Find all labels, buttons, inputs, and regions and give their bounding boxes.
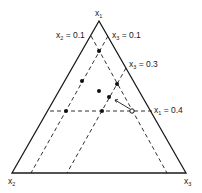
vertex-label-x1: x1 [95,8,102,19]
point [97,89,101,93]
simplex-triangle [12,21,186,173]
label-x1-0.4: x1 = 0.4 [154,105,183,116]
point [115,82,119,86]
arrow-icon [115,100,130,110]
label-x3-0.3: x3 = 0.3 [129,59,158,70]
point [107,95,111,99]
ternary-diagram: x1 x2 x3 x2 = 0.1 x3 = 0.1 x3 = 0.3 x1 =… [0,0,202,193]
point [100,109,104,113]
open-point [130,109,134,113]
vertex-label-x2: x2 [8,176,15,187]
line-x3-0.1 [31,36,108,173]
label-x3-0.1: x3 = 0.1 [112,30,141,41]
point [64,109,68,113]
point [80,79,84,83]
point [97,49,101,53]
vertex-label-x3: x3 [184,176,191,187]
label-x2-0.1: x2 = 0.1 [56,30,85,41]
